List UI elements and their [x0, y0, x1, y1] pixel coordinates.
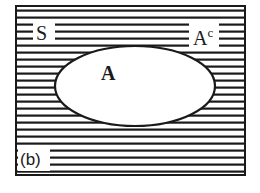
- panel-label: (b): [20, 150, 41, 169]
- label-ac-base: A: [193, 27, 208, 49]
- label-ac-superscript: c: [207, 25, 213, 40]
- label-a: A: [101, 62, 116, 84]
- venn-diagram: S Ac A (b): [0, 0, 260, 193]
- label-s: S: [36, 22, 47, 44]
- set-a-ellipse: [55, 46, 215, 126]
